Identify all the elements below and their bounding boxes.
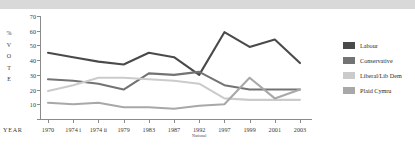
legend-item[interactable]: Labour bbox=[343, 38, 413, 53]
x-tick-mark bbox=[275, 119, 276, 123]
x-tick-label: 2003 bbox=[294, 126, 306, 133]
legend-item[interactable]: Plaid Cymru bbox=[343, 83, 413, 98]
x-tick-label: 1987 bbox=[168, 126, 180, 133]
y-tick-mark bbox=[37, 45, 41, 46]
y-tick-label: 50 bbox=[30, 42, 36, 49]
legend-label: Liberal/Lib Dem bbox=[360, 72, 402, 79]
x-tick-mark bbox=[48, 119, 49, 123]
x-tick-mark bbox=[149, 119, 150, 123]
x-tick-mark bbox=[224, 119, 225, 123]
y-tick-mark bbox=[37, 75, 41, 76]
y-tick-mark bbox=[37, 60, 41, 61]
legend-swatch bbox=[343, 72, 355, 79]
legend-label: Labour bbox=[360, 42, 378, 49]
x-tick-sublabel: National bbox=[192, 133, 206, 138]
legend-swatch bbox=[343, 57, 355, 64]
y-axis-title-char: T bbox=[2, 63, 16, 75]
x-tick-label: 1974 i bbox=[65, 126, 81, 133]
y-axis-tick-labels: 10203040506070 bbox=[20, 14, 36, 119]
x-tick-mark bbox=[300, 119, 301, 123]
series-line bbox=[48, 32, 300, 75]
y-axis-title-char: E bbox=[2, 74, 16, 86]
series-lines bbox=[40, 16, 312, 119]
x-axis-tick-labels: 19701974 i1974 ii1979198319871992Nationa… bbox=[40, 126, 330, 146]
y-axis-title-char: % bbox=[2, 28, 16, 40]
x-tick-mark bbox=[98, 119, 99, 123]
y-tick-mark bbox=[37, 31, 41, 32]
legend-swatch bbox=[343, 42, 355, 49]
x-tick-mark bbox=[124, 119, 125, 123]
scan-artifact-band bbox=[0, 0, 415, 9]
x-tick-mark bbox=[250, 119, 251, 123]
legend-label: Conservative bbox=[360, 57, 393, 64]
y-axis-title-char: O bbox=[2, 51, 16, 63]
plot-area bbox=[40, 16, 312, 119]
x-axis-line bbox=[40, 119, 312, 120]
legend-label: Plaid Cymru bbox=[360, 87, 391, 94]
legend: LabourConservativeLiberal/Lib DemPlaid C… bbox=[343, 38, 413, 98]
x-axis-title: YEAR bbox=[3, 126, 23, 133]
x-tick-label: 1997 bbox=[218, 126, 230, 133]
x-tick-mark bbox=[199, 119, 200, 123]
legend-item[interactable]: Conservative bbox=[343, 53, 413, 68]
x-tick-label: 1983 bbox=[143, 126, 155, 133]
y-tick-label: 30 bbox=[30, 71, 36, 78]
x-tick-label: 1970 bbox=[42, 126, 54, 133]
y-tick-mark bbox=[37, 16, 41, 17]
y-tick-mark bbox=[37, 119, 41, 120]
x-tick-mark bbox=[73, 119, 74, 123]
x-tick-mark bbox=[174, 119, 175, 123]
x-tick-label: 1992National bbox=[192, 126, 206, 138]
y-tick-label: 70 bbox=[30, 13, 36, 20]
y-tick-label: 10 bbox=[30, 101, 36, 108]
y-tick-label: 20 bbox=[30, 86, 36, 93]
y-tick-label: 40 bbox=[30, 57, 36, 64]
y-tick-mark bbox=[37, 104, 41, 105]
y-tick-label: 60 bbox=[30, 27, 36, 34]
legend-item[interactable]: Liberal/Lib Dem bbox=[343, 68, 413, 83]
y-axis-title-char: V bbox=[2, 40, 16, 52]
legend-swatch bbox=[343, 87, 355, 94]
x-tick-label: 1999 bbox=[243, 126, 255, 133]
x-tick-label: 1974 ii bbox=[90, 126, 107, 133]
y-axis-title: % V O T E bbox=[2, 28, 16, 86]
chart-figure: % V O T E 10203040506070 YEAR 19701974 i… bbox=[0, 0, 415, 149]
x-tick-label: 2001 bbox=[269, 126, 281, 133]
y-tick-mark bbox=[37, 90, 41, 91]
x-tick-label: 1979 bbox=[117, 126, 129, 133]
